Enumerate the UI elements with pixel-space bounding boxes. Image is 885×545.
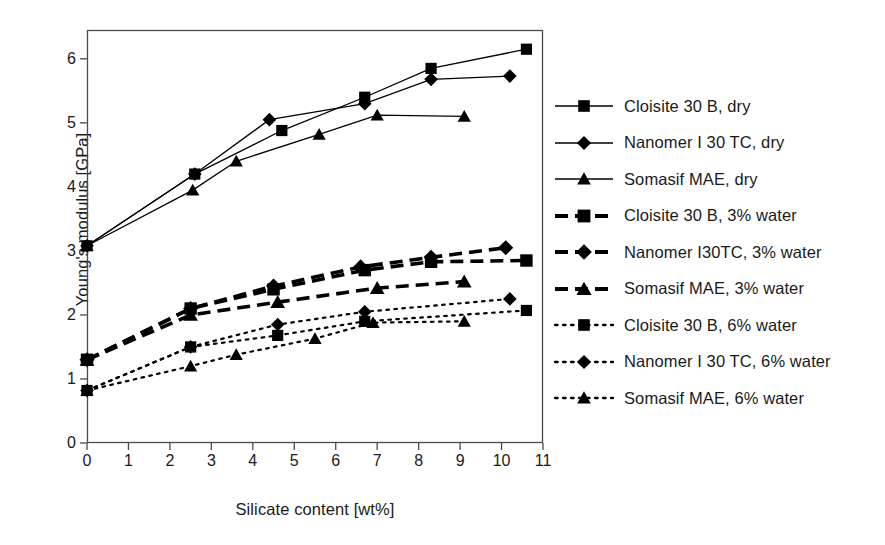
data-point-marker (271, 318, 285, 332)
x-tick-label: 6 (331, 443, 340, 470)
data-point-marker (272, 330, 283, 341)
x-tick-label: 7 (373, 443, 382, 470)
data-series (81, 44, 532, 252)
data-series (81, 254, 533, 366)
legend-key-diamond-icon (553, 240, 615, 264)
data-series (79, 240, 513, 367)
data-point-marker (263, 113, 277, 127)
x-tick-label: 4 (248, 443, 257, 470)
data-series (80, 292, 517, 397)
x-axis-title: Silicate content [wt%] (87, 500, 543, 519)
legend-label: Cloisite 30 B, 3% water (615, 206, 797, 225)
y-tick-label: 3 (67, 242, 87, 260)
chart-figure: Young's modulus [GPa] Silicate content [… (0, 0, 885, 545)
data-point-marker (503, 292, 517, 306)
x-tick-label: 0 (83, 443, 92, 470)
x-tick-label: 3 (207, 443, 216, 470)
data-point-marker (230, 348, 243, 360)
legend-label: Nanomer I30TC, 3% water (615, 243, 822, 262)
data-point-marker (186, 184, 199, 196)
legend-key-square-icon (553, 94, 615, 118)
y-tick-label: 1 (67, 370, 87, 388)
data-point-marker (308, 332, 321, 344)
legend-key-diamond-icon (553, 131, 615, 155)
data-point-marker (276, 125, 287, 136)
legend-label: Cloisite 30 B, dry (615, 97, 751, 116)
data-point-marker (230, 155, 243, 167)
x-tick-label: 8 (414, 443, 423, 470)
plot-area: 012345601234567891011 (87, 30, 543, 443)
data-series (80, 69, 517, 252)
legend-label: Nanomer I 30 TC, 6% water (615, 352, 831, 371)
legend-key-diamond-icon (553, 350, 615, 374)
x-tick-label: 11 (535, 443, 552, 470)
legend-label: Nanomer I 30 TC, dry (615, 133, 784, 152)
legend-item[interactable]: Cloisite 30 B, 6% water (553, 307, 883, 344)
y-tick-label: 2 (67, 306, 87, 324)
legend-item[interactable]: Somasif MAE, 6% water (553, 380, 883, 417)
data-point-marker (458, 315, 471, 327)
x-tick-label: 1 (124, 443, 133, 470)
legend-key-triangle-icon (553, 167, 615, 191)
legend-key-square-icon (553, 204, 615, 228)
legend-label: Somasif MAE, 6% water (615, 389, 804, 408)
legend-item[interactable]: Somasif MAE, 3% water (553, 271, 883, 308)
data-point-marker (521, 44, 532, 55)
x-tick-label: 2 (165, 443, 174, 470)
chart-legend: Cloisite 30 B, dryNanomer I 30 TC, drySo… (553, 88, 883, 417)
data-point-marker (425, 63, 436, 74)
legend-item[interactable]: Cloisite 30 B, dry (553, 88, 883, 125)
data-series (80, 109, 470, 251)
y-tick-label: 5 (67, 114, 87, 132)
data-point-marker (424, 72, 438, 86)
x-tick-label: 9 (456, 443, 465, 470)
data-point-marker (313, 128, 326, 140)
data-point-marker (503, 69, 517, 83)
legend-item[interactable]: Cloisite 30 B, 3% water (553, 198, 883, 235)
legend-item[interactable]: Nanomer I 30 TC, dry (553, 125, 883, 162)
x-tick-label: 5 (290, 443, 299, 470)
legend-key-triangle-icon (553, 277, 615, 301)
legend-label: Somasif MAE, 3% water (615, 279, 804, 298)
data-point-marker (520, 254, 532, 266)
legend-label: Somasif MAE, dry (615, 170, 758, 189)
legend-label: Cloisite 30 B, 6% water (615, 316, 797, 335)
legend-key-square-icon (553, 313, 615, 337)
legend-item[interactable]: Nanomer I30TC, 3% water (553, 234, 883, 271)
data-point-marker (498, 240, 513, 255)
data-point-marker (521, 305, 532, 316)
x-tick-label: 10 (493, 443, 511, 470)
y-tick-label: 6 (67, 50, 87, 68)
data-series-layer (87, 30, 543, 443)
y-tick-label: 4 (67, 178, 87, 196)
legend-key-triangle-icon (553, 386, 615, 410)
legend-item[interactable]: Somasif MAE, dry (553, 161, 883, 198)
legend-item[interactable]: Nanomer I 30 TC, 6% water (553, 344, 883, 381)
